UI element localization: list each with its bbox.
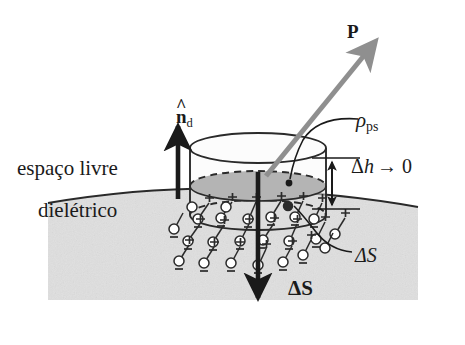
free-space-label: espaço livre [17,158,118,179]
rho-subscript: ps [366,119,378,134]
delta-S-area-label: ΔS [355,245,377,265]
n-subscript: d [187,116,193,130]
dipole [221,202,231,212]
dielectric-label: dielétrico [38,200,117,221]
rho-ps-leader-dot [286,180,293,187]
polarization-vector-label: P [347,22,359,41]
physics-diagram-figure: P ρps ^nd espaço livre dielétrico Δh→ 0 … [0,0,465,345]
delta-h-label: Δh→ 0 [351,156,412,176]
dipole [187,202,197,212]
rho-symbol: ρ [356,108,366,132]
normal-unit-vector-label: ^nd [176,107,193,129]
dipole [284,202,293,211]
bound-surface-charge-label: ρps [356,110,378,134]
n-hat-group: ^n [176,107,187,126]
hat-accent-icon: ^ [176,97,186,115]
delta-h-symbol: Δh [351,155,374,177]
h-symbol: h [364,155,374,177]
delta-h-limit: → 0 [377,155,412,177]
delta-S-vector-label: ΔS [288,278,313,299]
